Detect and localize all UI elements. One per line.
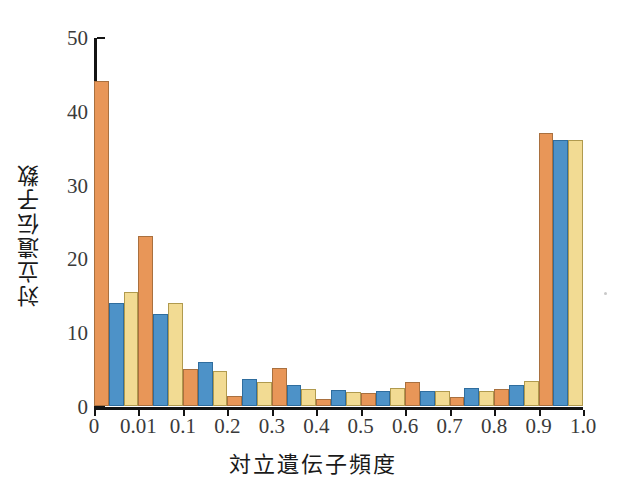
bar-series-1-0.3 [272, 368, 287, 406]
bar-series-3-0.2 [257, 382, 272, 406]
bar-series-1-0.01 [138, 236, 153, 406]
bar-series-2-0.7 [464, 388, 479, 406]
x-axis-tick-labels: 00.010.10.20.30.40.50.60.70.80.91.0 [94, 414, 594, 444]
bar-series-1-0.2 [227, 396, 242, 406]
bar-series-2-0.01 [153, 314, 168, 406]
bar-series-3-0.01 [168, 303, 183, 406]
bar-series-3-0.5 [390, 388, 405, 406]
bar-series-3-0.4 [346, 392, 361, 406]
y-axis-tick-label: 50 [44, 26, 88, 51]
bar-series-1-0.6 [405, 382, 420, 406]
bar-series-1-0.5 [361, 393, 376, 406]
bar-series-2-0.9 [553, 140, 568, 406]
scan-artifact-speck [604, 292, 607, 295]
bar-series-3-0.9 [568, 140, 583, 406]
bar-series-3-0 [124, 292, 139, 406]
bar-series-1-0.9 [539, 133, 554, 406]
bar-series-2-0.2 [242, 379, 257, 406]
x-axis-label: 対立遺伝子頻度 [0, 446, 625, 478]
y-axis-tick-label: 40 [44, 99, 88, 124]
bar-series-3-0.1 [213, 371, 228, 406]
bar-series-1-0.1 [183, 369, 198, 406]
bar-series-2-0.4 [331, 390, 346, 406]
x-axis-label-text: 対立遺伝子頻度 [229, 452, 397, 477]
bar-series-2-0.5 [376, 391, 391, 406]
bar-series-1-0.7 [450, 397, 465, 406]
bar-series-3-0.8 [524, 381, 539, 406]
bar-series-3-0.3 [301, 389, 316, 406]
bar-series-2-0.3 [287, 385, 302, 406]
y-axis-tick-label: 20 [44, 247, 88, 272]
y-axis-tick-label: 10 [44, 321, 88, 346]
bar-series-2-0.8 [509, 385, 524, 406]
bar-series-1-0 [94, 81, 109, 406]
plot-area [94, 38, 586, 409]
bar-series-3-0.6 [435, 391, 450, 406]
y-axis-tick-mark [97, 406, 105, 408]
y-axis-tick-label: 30 [44, 173, 88, 198]
bar-series-2-0.6 [420, 391, 435, 406]
bar-series-3-0.7 [479, 391, 494, 406]
bar-series-2-0 [109, 303, 124, 406]
x-axis-line [94, 407, 583, 410]
y-axis-tick-mark [97, 37, 105, 39]
bar-series-1-0.4 [316, 399, 331, 406]
x-axis-tick-label: 1.0 [553, 414, 613, 439]
bar-series-2-0.1 [198, 362, 213, 406]
bar-series-1-0.8 [494, 389, 509, 406]
chart-figure: 対立遺伝子数 01020304050 00.010.10.20.30.40.50… [0, 0, 625, 495]
